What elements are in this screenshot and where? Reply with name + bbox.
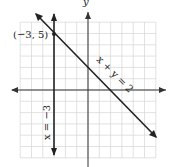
line-x-eq-neg3-arrow-down-icon bbox=[51, 148, 57, 156]
y-axis-arrow-up-icon bbox=[85, 12, 91, 19]
line-x-eq-neg3-arrow-up-icon bbox=[51, 13, 57, 21]
line2-label: x = −3 bbox=[41, 105, 52, 140]
line1-label: x + y = 2 bbox=[95, 54, 136, 95]
y-axis-label: y bbox=[82, 0, 89, 7]
point-neg3-5 bbox=[52, 32, 56, 36]
point-label: (−3, 5) bbox=[13, 29, 48, 40]
graph: (−3, 5) x + y = 2 x = −3 y bbox=[0, 0, 171, 167]
x-axis-arrow-left-icon bbox=[11, 87, 18, 93]
x-axis-arrow-right-icon bbox=[159, 87, 166, 93]
